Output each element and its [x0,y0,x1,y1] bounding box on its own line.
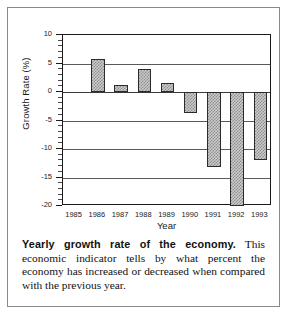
y-tick-mark [56,205,62,206]
bar [207,92,220,167]
x-tick-label: 1985 [61,211,87,219]
y-tick-label: -10 [26,144,52,152]
bar [91,59,104,92]
plot-area [62,34,271,205]
bar [184,92,197,113]
bar [254,92,267,160]
figure-caption: Yearly growth rate of the economy. This … [22,238,265,292]
bar [230,92,243,206]
x-tick-label: 1992 [223,211,249,219]
bar [138,69,151,92]
x-tick-label: 1987 [107,211,133,219]
y-tick-label: 0 [26,87,52,95]
y-tick-label: -5 [26,116,52,124]
y-tick-label: 10 [26,30,52,38]
x-tick-label: 1988 [130,211,156,219]
bar-series [63,35,270,204]
bar [161,83,174,92]
x-tick-label: 1993 [246,211,272,219]
bar [114,85,127,92]
y-tick-label: -15 [26,173,52,181]
bar-chart: Growth Rate (%) 1050-5-10-15-20 19851986… [7,10,280,232]
x-tick-label: 1991 [200,211,226,219]
x-tick-label: 1990 [177,211,203,219]
figure-panel: Growth Rate (%) 1050-5-10-15-20 19851986… [0,0,287,314]
x-tick-label: 1986 [84,211,110,219]
y-tick-label: 5 [26,59,52,67]
y-tick-label: -20 [26,201,52,209]
caption-lead: Yearly growth rate of the economy. [22,238,236,250]
x-axis-title: Year [62,220,271,231]
x-tick-label: 1989 [154,211,180,219]
